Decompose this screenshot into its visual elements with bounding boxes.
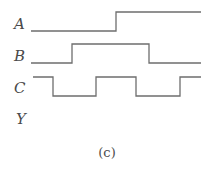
signal-label-y: Y [16, 112, 26, 127]
signal-label-c: C [14, 81, 25, 96]
waveform-b [31, 44, 201, 63]
waveform-a [31, 12, 201, 31]
signal-label-a: A [14, 17, 25, 32]
signal-label-b: B [14, 49, 25, 64]
figure-caption: (c) [0, 146, 214, 159]
waveform-c [33, 77, 201, 96]
timing-diagram: A B C Y (c) [0, 0, 214, 188]
